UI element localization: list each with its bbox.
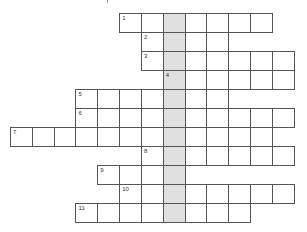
crossword-cell[interactable]: 4 [163, 70, 186, 90]
crossword-cell[interactable] [119, 127, 142, 147]
crossword-cell[interactable] [228, 184, 251, 204]
crossword-cell[interactable]: 6 [75, 108, 98, 128]
crossword-cell[interactable] [163, 32, 186, 52]
crossword-cell[interactable] [185, 146, 208, 166]
crossword-cell[interactable] [141, 89, 164, 109]
clue-number: 11 [78, 205, 84, 211]
crossword-cell[interactable] [163, 108, 186, 128]
crossword-cell[interactable] [32, 127, 55, 147]
crossword-cell[interactable] [272, 51, 295, 71]
crossword-cell[interactable] [250, 13, 273, 33]
crossword-cell[interactable] [185, 70, 208, 90]
crossword-cell[interactable] [185, 184, 208, 204]
crossword-cell[interactable] [185, 203, 208, 223]
crossword-grid: 1234567891011 [0, 0, 307, 232]
crossword-cell[interactable] [206, 108, 229, 128]
crossword-cell[interactable] [97, 203, 120, 223]
crossword-cell[interactable] [163, 89, 186, 109]
crossword-cell[interactable] [250, 108, 273, 128]
crossword-cell[interactable] [141, 108, 164, 128]
crossword-cell[interactable]: 7 [10, 127, 33, 147]
crossword-cell[interactable] [97, 89, 120, 109]
clue-number: 6 [78, 110, 81, 116]
crossword-cell[interactable] [97, 108, 120, 128]
crossword-cell[interactable] [228, 127, 251, 147]
crossword-cell[interactable] [206, 51, 229, 71]
crossword-cell[interactable] [228, 146, 251, 166]
crossword-cell[interactable] [141, 127, 164, 147]
crossword-cell[interactable] [206, 89, 229, 109]
crossword-cell[interactable] [228, 51, 251, 71]
crossword-cell[interactable] [141, 13, 164, 33]
crossword-cell[interactable] [228, 203, 251, 223]
crossword-cell[interactable] [206, 184, 229, 204]
crossword-cell[interactable] [119, 203, 142, 223]
clue-number: 7 [13, 129, 16, 135]
crossword-cell[interactable] [185, 108, 208, 128]
crossword-cell[interactable] [250, 51, 273, 71]
crossword-cell[interactable] [163, 184, 186, 204]
crossword-cell[interactable]: 10 [119, 184, 142, 204]
crossword-cell[interactable] [141, 165, 164, 185]
crossword-cell[interactable] [272, 146, 295, 166]
clue-number: 8 [144, 148, 147, 154]
crossword-cell[interactable]: 11 [75, 203, 98, 223]
crossword-cell[interactable] [250, 184, 273, 204]
crossword-cell[interactable] [185, 89, 208, 109]
crossword-cell[interactable] [228, 70, 251, 90]
crossword-cell[interactable] [206, 127, 229, 147]
crossword-cell[interactable] [228, 108, 251, 128]
crossword-cell[interactable] [185, 127, 208, 147]
crossword-cell[interactable] [206, 13, 229, 33]
crossword-cell[interactable] [163, 127, 186, 147]
crossword-cell[interactable] [250, 146, 273, 166]
crossword-cell[interactable] [97, 127, 120, 147]
crossword-cell[interactable]: 1 [119, 13, 142, 33]
clue-number: 4 [166, 72, 169, 78]
crossword-cell[interactable] [206, 70, 229, 90]
crossword-cell[interactable] [250, 70, 273, 90]
crossword-cell[interactable]: 9 [97, 165, 120, 185]
crossword-cell[interactable]: 8 [141, 146, 164, 166]
crossword-cell[interactable] [206, 146, 229, 166]
crossword-cell[interactable] [163, 51, 186, 71]
crossword-cell[interactable] [250, 127, 273, 147]
crossword-cell[interactable] [119, 108, 142, 128]
crossword-cell[interactable] [54, 127, 77, 147]
crossword-cell[interactable] [272, 70, 295, 90]
crossword-cell[interactable] [206, 203, 229, 223]
clue-number: 2 [144, 34, 147, 40]
crossword-cell[interactable]: 5 [75, 89, 98, 109]
edge-artifact [107, 0, 108, 3]
crossword-cell[interactable] [163, 165, 186, 185]
clue-number: 9 [100, 167, 103, 173]
crossword-cell[interactable] [141, 203, 164, 223]
crossword-cell[interactable] [228, 13, 251, 33]
crossword-cell[interactable] [119, 165, 142, 185]
crossword-cell[interactable]: 2 [141, 32, 164, 52]
crossword-cell[interactable] [185, 13, 208, 33]
crossword-cell[interactable] [272, 184, 295, 204]
crossword-cell[interactable] [185, 51, 208, 71]
clue-number: 1 [122, 15, 125, 21]
crossword-cell[interactable] [163, 146, 186, 166]
clue-number: 3 [144, 53, 147, 59]
crossword-cell[interactable] [206, 32, 229, 52]
crossword-cell[interactable] [75, 127, 98, 147]
crossword-cell[interactable] [141, 184, 164, 204]
clue-number: 10 [122, 186, 129, 192]
crossword-cell[interactable]: 3 [141, 51, 164, 71]
crossword-cell[interactable] [163, 13, 186, 33]
crossword-cell[interactable] [272, 108, 295, 128]
crossword-cell[interactable] [119, 89, 142, 109]
crossword-cell[interactable] [163, 203, 186, 223]
crossword-cell[interactable] [185, 32, 208, 52]
clue-number: 5 [78, 91, 81, 97]
